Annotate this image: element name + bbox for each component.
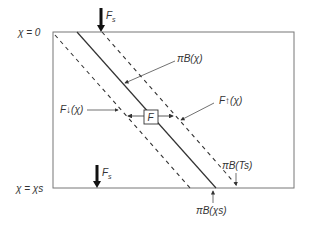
pi-b-chi-label: πB(χ) [177, 53, 203, 64]
pi-b-chis-label: πB(χs) [196, 205, 227, 216]
incident-flux-bottom-arrow [93, 165, 101, 188]
pi-b-chi-pointer [125, 61, 175, 83]
f-up-dashed-line [102, 32, 239, 188]
f-box-label: F [148, 112, 155, 123]
f-down-label: F↓(χ) [60, 104, 83, 115]
f-up-label: F↑(χ) [219, 95, 242, 106]
top-boundary-label: χ = 0 [17, 27, 41, 38]
pi-b-ts-label: πB(Ts) [222, 160, 252, 171]
bottom-boundary-label: χ = χs [15, 183, 43, 194]
incident-flux-bottom-label: Fs [102, 167, 112, 180]
incident-flux-top-label: Fs [106, 10, 116, 23]
f-up-pointer [181, 103, 214, 120]
incident-flux-top-arrow [97, 8, 105, 32]
radiative-transfer-diagram: χ = 0 χ = χs Fs Fs πB(χ) F↓(χ) F↑(χ) F π… [0, 0, 311, 225]
